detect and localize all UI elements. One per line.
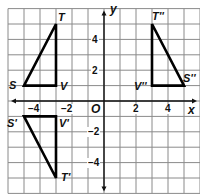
y-tick-label: −2 (87, 127, 100, 137)
vertex-label-V-prime: V' (59, 118, 69, 129)
y-tick-label: 4 (91, 35, 99, 45)
vertex-label-V-double-prime: V'' (134, 81, 147, 92)
vertex-label-S: S (9, 80, 16, 91)
vertex-label-T: T (58, 12, 65, 23)
vertex-label-V: V (60, 81, 67, 92)
x-tick-label: −4 (27, 104, 40, 114)
x-axis-label: x (188, 104, 195, 116)
y-tick-label: 2 (91, 66, 99, 76)
x-tick-label: 4 (164, 104, 172, 114)
x-tick-label: 2 (132, 104, 140, 114)
vertex-label-S-double-prime: S'' (183, 73, 196, 84)
vertex-label-T-prime: T' (61, 172, 70, 183)
x-tick-label: −2 (60, 104, 73, 114)
origin-label: O (91, 103, 100, 115)
vertex-label-S-prime: S' (7, 118, 17, 129)
vertex-label-T-double-prime: T'' (152, 11, 164, 22)
axes (11, 11, 197, 192)
y-axis-label: y (110, 3, 117, 15)
y-tick-label: −4 (87, 158, 100, 168)
